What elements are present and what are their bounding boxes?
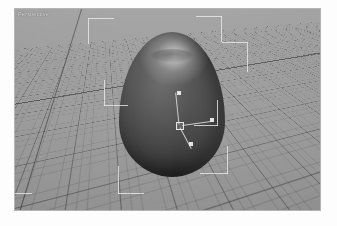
bracket-arm-horizontal: [88, 18, 114, 19]
bracket-arm-horizontal: [14, 193, 32, 194]
translate-gizmo[interactable]: [154, 86, 224, 148]
bracket-arm-vertical: [88, 18, 89, 44]
gizmo-axis-z-handle[interactable]: [189, 142, 193, 146]
bracket-corner-front-left-bot: [14, 172, 32, 194]
perspective-viewport[interactable]: Perspective: [14, 8, 321, 211]
gizmo-axis-y[interactable]: [175, 93, 179, 125]
bracket-arm-vertical: [247, 42, 248, 72]
bracket-arm-vertical: [104, 80, 105, 106]
bracket-corner-front-right-top: [222, 42, 248, 72]
bracket-corner-back-left-top: [88, 18, 114, 44]
gizmo-axis-x-handle[interactable]: [210, 118, 214, 122]
viewport-label[interactable]: Perspective: [18, 10, 49, 18]
world-axis-y-line: [14, 8, 98, 211]
gizmo-axis-y-handle[interactable]: [177, 91, 181, 95]
app-root: Perspective: [0, 0, 337, 226]
bracket-arm-vertical: [14, 172, 15, 194]
gizmo-origin-handle[interactable]: [176, 122, 184, 130]
bracket-arm-horizontal: [196, 16, 222, 17]
bracket-arm-horizontal: [118, 193, 144, 194]
gizmo-axis-x[interactable]: [182, 121, 213, 126]
bracket-arm-vertical: [227, 146, 228, 174]
bracket-arm-horizontal: [222, 42, 248, 43]
